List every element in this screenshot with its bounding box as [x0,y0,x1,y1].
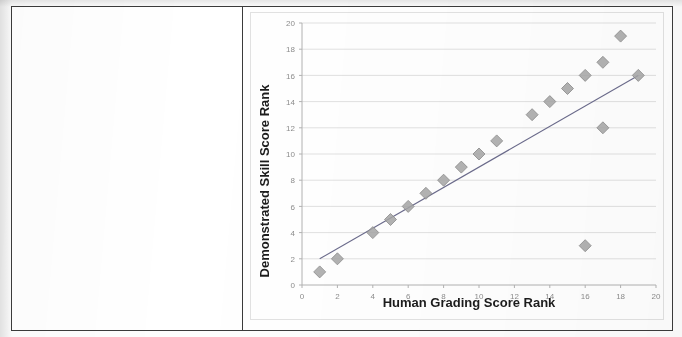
y-tick-label: 2 [291,255,296,264]
y-tick-label: 4 [291,229,296,238]
y-tick-label: 8 [291,176,296,185]
x-tick-label: 16 [581,292,590,301]
x-axis-title: Human Grading Score Rank [383,295,556,310]
table-cell-chart: 02468101214161820 02468101214161820 Demo… [243,7,672,330]
chart-container: 02468101214161820 02468101214161820 Demo… [250,12,664,320]
x-tick-label: 4 [371,292,376,301]
x-tick-label: 0 [300,292,305,301]
x-tick-label: 18 [616,292,625,301]
y-tick-label: 10 [286,150,295,159]
y-tick-label: 14 [286,98,295,107]
document-table: 02468101214161820 02468101214161820 Demo… [11,6,673,331]
x-tick-label: 20 [652,292,661,301]
y-tick-label: 12 [286,124,295,133]
y-tick-label: 18 [286,45,295,54]
scatter-chart: 02468101214161820 02468101214161820 Demo… [251,13,663,319]
y-tick-label: 0 [291,281,296,290]
table-cell-empty [12,7,243,330]
y-tick-label: 6 [291,203,296,212]
scanned-page: 02468101214161820 02468101214161820 Demo… [0,0,682,337]
x-tick-label: 2 [335,292,340,301]
y-axis-title: Demonstrated Skill Score Rank [257,84,272,278]
y-tick-label: 20 [286,19,295,28]
y-tick-label: 16 [286,72,295,81]
